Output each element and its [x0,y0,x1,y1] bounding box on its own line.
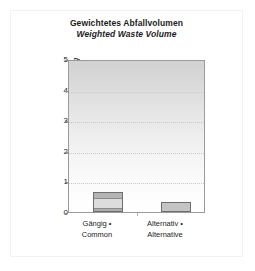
chart-figure: Gewichtetes Abfallvolumen Weighted Waste… [0,0,255,271]
bar-alternativ-alternative [161,202,191,212]
plot-area-wrapper [68,60,205,213]
x-label-line1-german: Alternativ • [120,219,210,230]
bar-segment-body [94,199,122,208]
x-label-line2-english: Alternative [120,230,210,241]
bar-gaengig-common [93,192,123,212]
x-tick-mark-center [137,213,138,216]
plot-area [68,60,205,213]
chart-title-german: Gewichtetes Abfallvolumen [10,18,243,29]
x-axis-label-alternativ-alternative: Alternativ • Alternative [120,219,210,241]
gridline-4 [69,92,204,93]
y-tick-mark-0 [65,213,68,214]
gridline-3 [69,122,204,123]
chart-title-english: Weighted Waste Volume [10,29,243,40]
gridline-1 [69,183,204,184]
bar-segment-base [94,208,122,211]
gridline-2 [69,153,204,154]
chart-title-block: Gewichtetes Abfallvolumen Weighted Waste… [10,18,243,39]
